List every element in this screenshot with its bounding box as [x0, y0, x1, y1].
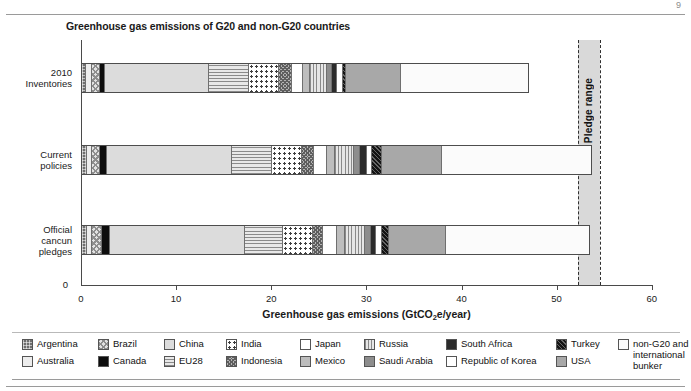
legend-swatch-icon — [22, 356, 33, 367]
legend-item-russia[interactable]: Russia — [364, 338, 446, 351]
category-label-2: Officialcancunpledges — [0, 224, 72, 257]
bar-segment-mexico[interactable] — [326, 146, 334, 174]
stacked-bar[interactable] — [81, 145, 592, 175]
bar-segment-china[interactable] — [106, 146, 231, 174]
bar-segment-eu28[interactable] — [244, 226, 282, 254]
legend-label: Argentina — [37, 338, 78, 349]
x-tick-30 — [366, 285, 367, 290]
bar-segment-russia[interactable] — [334, 146, 353, 174]
x-tick-label-30: 30 — [361, 293, 372, 304]
legend-swatch-icon — [98, 339, 109, 350]
legend-label: Australia — [37, 355, 74, 366]
bar-segment-turkey[interactable] — [381, 226, 388, 254]
x-tick-label-50: 50 — [551, 293, 562, 304]
x-tick-label-20: 20 — [266, 293, 277, 304]
legend-label: Russia — [379, 338, 408, 349]
legend-item-non-g20-and-international-bunker[interactable]: non-G20 and international bunker — [618, 338, 691, 371]
bar-segment-mexico[interactable] — [336, 226, 345, 254]
pledge-range-label: Pledge range — [583, 78, 594, 143]
pledge-range-boundary-upper — [600, 40, 601, 285]
stacked-bar[interactable] — [81, 225, 590, 255]
legend-item-japan[interactable]: Japan — [300, 338, 364, 351]
legend-item-south-africa[interactable]: South Africa — [446, 338, 556, 351]
legend-column-3: IndiaIndonesia — [226, 338, 300, 371]
legend-column-8: non-G20 and international bunker — [618, 338, 691, 371]
legend-swatch-icon — [22, 339, 33, 350]
legend-column-0: ArgentinaAustralia — [22, 338, 98, 371]
x-tick-40 — [462, 285, 463, 290]
legend-item-argentina[interactable]: Argentina — [22, 338, 98, 351]
bar-segment-china[interactable] — [104, 64, 208, 92]
legend-label: Republic of Korea — [461, 355, 537, 366]
legend-label: China — [179, 338, 204, 349]
bar-segment-indonesia[interactable] — [312, 226, 321, 254]
x-tick-label-10: 10 — [171, 293, 182, 304]
bar-segment-india[interactable] — [248, 64, 278, 92]
category-label-line: Current — [0, 149, 72, 160]
bar-segment-canada[interactable] — [99, 146, 106, 174]
category-label-line: cancun — [0, 235, 72, 246]
bar-segment-china[interactable] — [109, 226, 244, 254]
legend-column-7: TurkeyUSA — [556, 338, 618, 371]
legend-swatch-icon — [446, 356, 457, 367]
bar-segment-india[interactable] — [271, 146, 301, 174]
legend-swatch-icon — [300, 356, 311, 367]
legend-item-australia[interactable]: Australia — [22, 355, 98, 368]
bar-segment-south-africa[interactable] — [359, 146, 366, 174]
legend-item-india[interactable]: India — [226, 338, 300, 351]
x-tick-label-0: 0 — [78, 293, 83, 304]
legend-swatch-icon — [164, 356, 175, 367]
legend-item-republic-of-korea[interactable]: Republic of Korea — [446, 355, 556, 368]
legend-swatch-icon — [164, 339, 175, 350]
legend: ArgentinaAustraliaBrazilCanadaChinaEU28I… — [12, 332, 680, 380]
x-axis-title-sub: 2 — [433, 313, 437, 322]
bar-segment-brazil[interactable] — [91, 64, 99, 92]
bar-segment-brazil[interactable] — [91, 146, 99, 174]
legend-item-turkey[interactable]: Turkey — [556, 338, 618, 351]
legend-label: Turkey — [571, 338, 600, 349]
legend-label: Mexico — [315, 355, 345, 366]
legend-items: ArgentinaAustraliaBrazilCanadaChinaEU28I… — [22, 338, 691, 371]
bar-segment-brazil[interactable] — [91, 226, 101, 254]
bar-segment-non-g20-and-international-bunker[interactable] — [445, 226, 590, 254]
bar-segment-india[interactable] — [282, 226, 313, 254]
bar-segment-mexico[interactable] — [302, 64, 309, 92]
legend-item-china[interactable]: China — [164, 338, 226, 351]
legend-item-indonesia[interactable]: Indonesia — [226, 355, 300, 368]
category-label-line: 2010 — [0, 67, 72, 78]
legend-item-usa[interactable]: USA — [556, 355, 618, 368]
legend-item-canada[interactable]: Canada — [98, 355, 164, 368]
bar-segment-japan[interactable] — [322, 226, 336, 254]
bar-segment-eu28[interactable] — [208, 64, 248, 92]
legend-column-2: ChinaEU28 — [164, 338, 226, 371]
bar-segment-canada[interactable] — [101, 226, 109, 254]
bar-segment-non-g20-and-international-bunker[interactable] — [400, 64, 528, 92]
legend-label: Japan — [315, 338, 341, 349]
legend-swatch-icon — [364, 339, 375, 350]
legend-column-4: JapanMexico — [300, 338, 364, 371]
bar-segment-eu28[interactable] — [231, 146, 271, 174]
category-label-line: Inventories — [0, 78, 72, 89]
bar-segment-indonesia[interactable] — [278, 64, 291, 92]
legend-swatch-icon — [300, 339, 311, 350]
legend-item-saudi-arabia[interactable]: Saudi Arabia — [364, 355, 446, 368]
bar-segment-usa[interactable] — [381, 146, 441, 174]
x-axis-title-post: e/year) — [437, 308, 471, 320]
bar-segment-usa[interactable] — [345, 64, 400, 92]
y-axis-zero-label: 0 — [63, 279, 68, 290]
bar-segment-japan[interactable] — [291, 64, 302, 92]
bar-segment-russia[interactable] — [309, 64, 326, 92]
legend-item-brazil[interactable]: Brazil — [98, 338, 164, 351]
bar-segment-usa[interactable] — [388, 226, 445, 254]
bar-segment-turkey[interactable] — [371, 146, 381, 174]
legend-item-eu28[interactable]: EU28 — [164, 355, 226, 368]
bar-segment-japan[interactable] — [313, 146, 326, 174]
x-tick-10 — [176, 285, 177, 290]
legend-swatch-icon — [446, 339, 457, 350]
bar-segment-indonesia[interactable] — [301, 146, 313, 174]
stacked-bar[interactable] — [81, 63, 529, 93]
x-tick-label-60: 60 — [647, 293, 658, 304]
bar-segment-russia[interactable] — [344, 226, 363, 254]
legend-item-mexico[interactable]: Mexico — [300, 355, 364, 368]
bar-segment-non-g20-and-international-bunker[interactable] — [441, 146, 591, 174]
